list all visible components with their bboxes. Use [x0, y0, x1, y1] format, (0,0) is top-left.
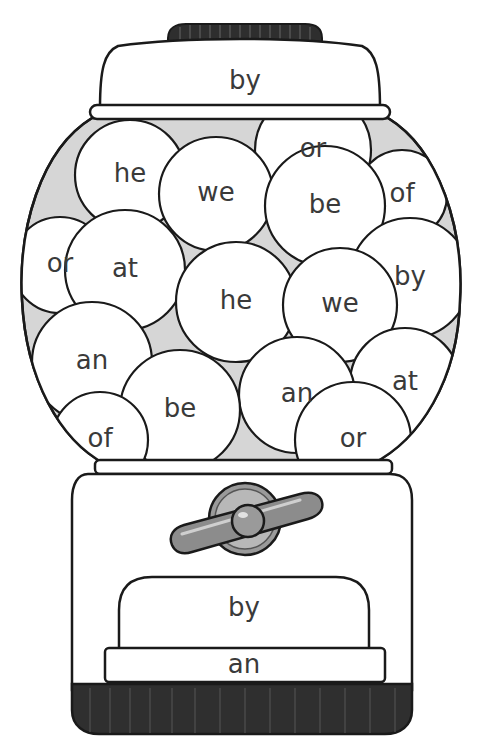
- gumball-word: an: [76, 347, 108, 373]
- gumball-word: by: [394, 263, 426, 289]
- gumball-word: or: [47, 250, 74, 276]
- chute-word: by: [228, 594, 260, 620]
- base-ring: [72, 684, 412, 734]
- gumball-word: be: [309, 191, 342, 217]
- gumball-word: of: [389, 180, 414, 206]
- gumball-word: at: [392, 368, 418, 394]
- neck-ring: [95, 460, 392, 474]
- cap-word: by: [229, 67, 261, 93]
- gumball-word: at: [112, 255, 138, 281]
- gumball-word: be: [164, 395, 197, 421]
- gumball-word: we: [321, 290, 358, 316]
- gumball-word: he: [114, 160, 146, 186]
- gumball-word: of: [87, 425, 112, 451]
- gumball-word: we: [197, 179, 234, 205]
- gumball-word: an: [281, 380, 313, 406]
- gumball-word: or: [300, 135, 327, 161]
- gumball-word: he: [220, 287, 252, 313]
- gumball-word: or: [340, 425, 367, 451]
- base-strip-word: an: [228, 651, 260, 677]
- gumball-machine-worksheet: by orofhewebeoratbyheweanatanbeofor by a…: [0, 0, 478, 751]
